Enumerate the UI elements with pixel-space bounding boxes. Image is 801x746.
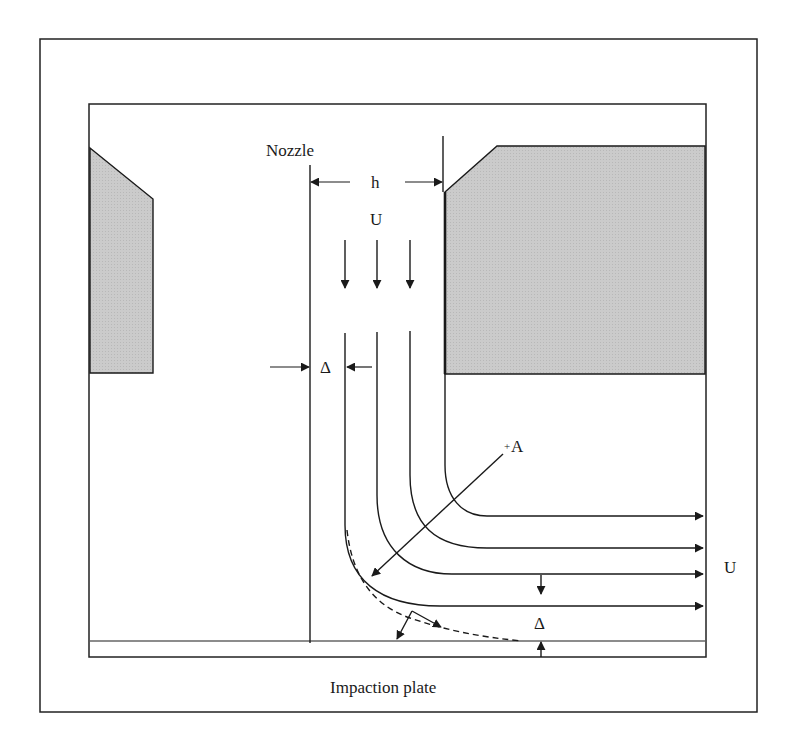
inlet-delta-label: Δ: [320, 358, 331, 377]
boundary-layer-dashed: [347, 530, 522, 641]
tangent-arrow-plate: [412, 611, 441, 627]
right-nozzle-body: [445, 146, 705, 374]
inlet-velocity-label: U: [370, 210, 382, 229]
outlet-velocity-label: U: [724, 558, 736, 577]
section-marker: +: [504, 440, 510, 452]
section-a-label: A: [511, 437, 524, 456]
outer-frame: [40, 39, 757, 712]
normal-arrow-plate: [397, 611, 412, 639]
nozzle-width-label: h: [371, 173, 380, 192]
streamline-4: [445, 374, 703, 516]
impaction-plate-label: Impaction plate: [330, 678, 436, 697]
outlet-delta-label: Δ: [534, 614, 545, 633]
left-nozzle-body: [90, 148, 153, 373]
section-a-line: [372, 454, 503, 576]
diagram-canvas: Nozzle h U Δ + A Δ U Impaction plate: [0, 0, 801, 746]
nozzle-label: Nozzle: [266, 141, 314, 160]
